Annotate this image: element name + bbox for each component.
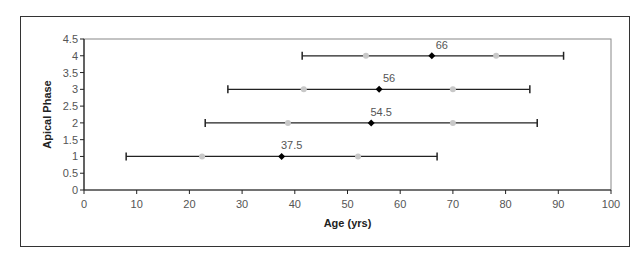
- y-tick-label: 0: [72, 184, 78, 196]
- median-marker: [376, 86, 383, 93]
- quartile-marker: [199, 153, 205, 159]
- x-tick-label: 70: [447, 198, 459, 210]
- y-tick-label: 2: [72, 117, 78, 129]
- y-tick-label: 2.5: [63, 100, 78, 112]
- x-tick-label: 30: [236, 198, 248, 210]
- chart-plot: 00.511.522.533.544.501020304050607080901…: [0, 0, 644, 264]
- quartile-marker: [285, 120, 291, 126]
- x-tick-label: 10: [131, 198, 143, 210]
- quartile-marker: [363, 53, 369, 59]
- x-tick-label: 20: [183, 198, 195, 210]
- plot-area: [84, 39, 611, 190]
- median-marker: [428, 52, 435, 59]
- x-tick-label: 100: [602, 198, 620, 210]
- y-tick-label: 0.5: [63, 167, 78, 179]
- data-label: 37.5: [281, 139, 302, 151]
- quartile-marker: [493, 53, 499, 59]
- quartile-marker: [301, 86, 307, 92]
- y-tick-label: 3: [72, 83, 78, 95]
- y-tick-label: 1: [72, 150, 78, 162]
- y-tick-label: 4.5: [63, 33, 78, 45]
- data-label: 54.5: [371, 106, 392, 118]
- x-tick-label: 60: [394, 198, 406, 210]
- y-tick-label: 1.5: [63, 134, 78, 146]
- x-tick-label: 0: [81, 198, 87, 210]
- median-marker: [278, 153, 285, 160]
- x-tick-label: 50: [341, 198, 353, 210]
- data-label: 66: [436, 39, 448, 51]
- quartile-marker: [450, 86, 456, 92]
- median-marker: [368, 119, 375, 126]
- quartile-marker: [450, 120, 456, 126]
- y-tick-label: 3.5: [63, 67, 78, 79]
- x-axis-title: Age (yrs): [324, 217, 372, 229]
- x-tick-label: 90: [552, 198, 564, 210]
- y-tick-label: 4: [72, 50, 78, 62]
- quartile-marker: [355, 153, 361, 159]
- x-tick-label: 80: [499, 198, 511, 210]
- y-axis-title: Apical Phase: [41, 80, 53, 148]
- data-label: 56: [383, 72, 395, 84]
- x-tick-label: 40: [289, 198, 301, 210]
